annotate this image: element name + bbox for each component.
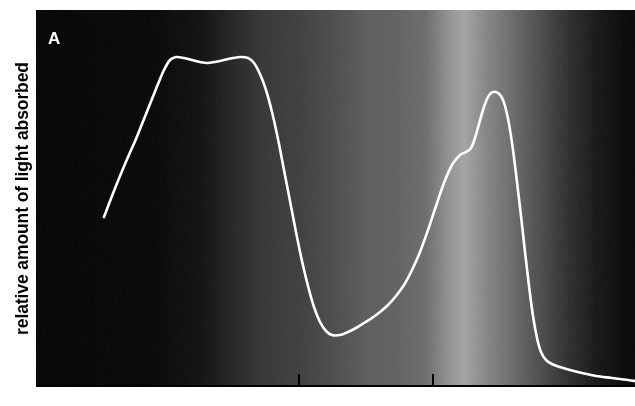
- absorption-curve-line: [104, 57, 635, 381]
- x-axis-tick-0: [298, 374, 300, 386]
- absorption-curve-svg: [36, 10, 635, 386]
- y-axis-label: relative amount of light absorbed: [12, 14, 33, 384]
- panel-label-a: A: [48, 30, 60, 47]
- y-axis-label-container: relative amount of light absorbed: [0, 10, 34, 386]
- x-axis-tick-1: [432, 374, 434, 386]
- plot-area: A: [36, 10, 635, 386]
- x-axis-line: [36, 385, 635, 387]
- figure-panel-a: relative amount of light absorbed A: [0, 0, 635, 406]
